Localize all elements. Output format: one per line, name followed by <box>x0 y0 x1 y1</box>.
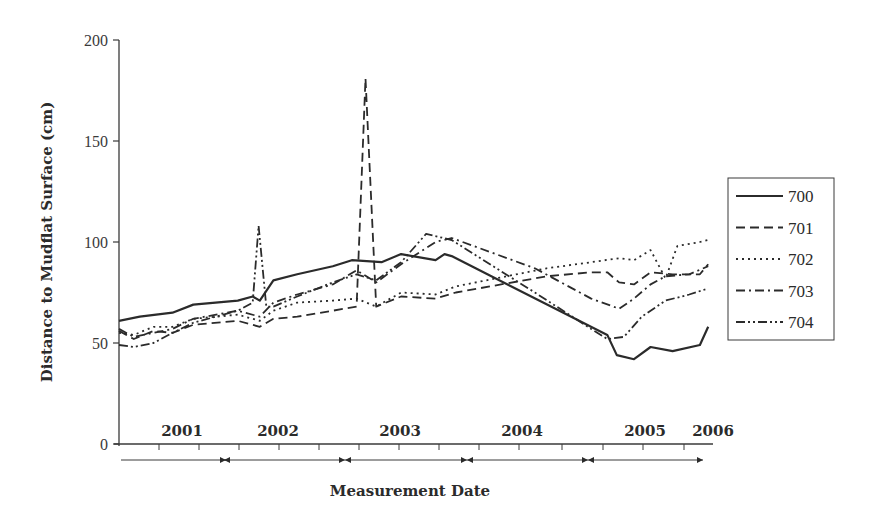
series-703-line <box>119 238 708 337</box>
series-701-line <box>119 78 708 339</box>
legend-label-703: 703 <box>788 282 814 301</box>
year-label: 2002 <box>257 422 299 440</box>
legend-label-704: 704 <box>788 313 814 332</box>
year-label: 2001 <box>161 422 203 440</box>
y-tick-label: 0 <box>100 436 108 453</box>
year-label: 2005 <box>624 422 666 440</box>
series-700-line <box>119 254 708 359</box>
year-label: 2004 <box>501 422 543 440</box>
x-axis: 200120022003200420052006 <box>114 422 734 450</box>
y-tick-label: 100 <box>84 234 108 251</box>
year-label: 2003 <box>379 422 421 440</box>
legend-label-702: 702 <box>788 250 814 269</box>
y-axis-title: Distance to Mudflat Surface (cm) <box>38 102 56 382</box>
series-704-line <box>119 226 708 347</box>
series-lines <box>119 78 708 359</box>
x-axis-title: Measurement Date <box>330 482 490 500</box>
legend-label-700: 700 <box>788 187 814 206</box>
legend-label-701: 701 <box>788 219 814 238</box>
year-label: 2006 <box>692 422 734 440</box>
y-tick-label: 200 <box>84 32 108 49</box>
year-span-arrows <box>121 457 703 463</box>
y-axis: 050100150200 <box>84 32 119 453</box>
y-tick-label: 50 <box>92 335 108 352</box>
series-702-line <box>119 240 708 335</box>
y-tick-label: 150 <box>84 133 108 150</box>
legend: 700701702703704 <box>728 178 834 340</box>
line-chart: 050100150200 200120022003200420052006 Di… <box>0 0 878 526</box>
